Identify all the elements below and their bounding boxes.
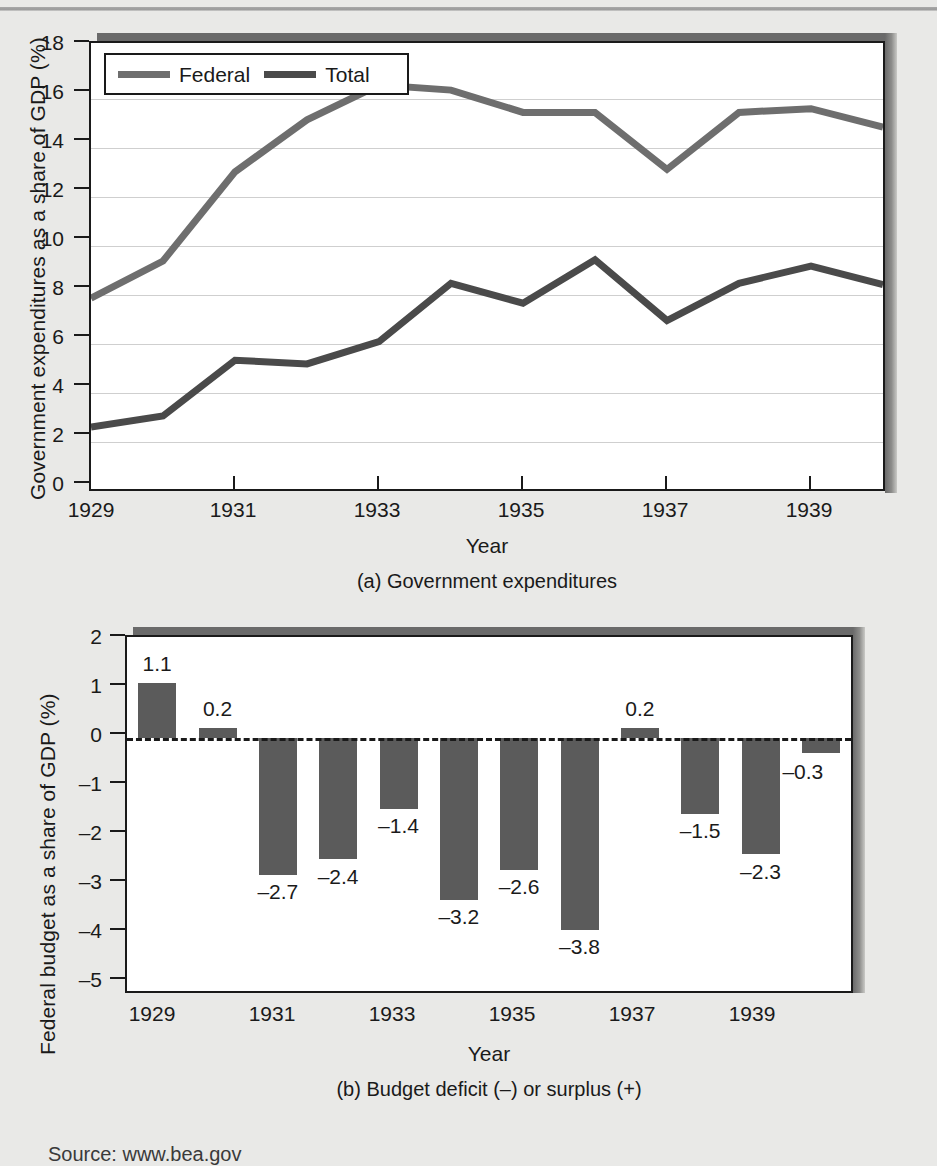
bar-1933 (380, 738, 418, 809)
panel-b-y-tickmark (110, 977, 125, 979)
panel-a-y-tick-10: 10 (20, 228, 64, 249)
panel-b-x-tick-1929: 1929 (107, 1003, 197, 1024)
panel-b-plot-area: 1.1 0.2 –2.7 –2.4 –1.4 –3.2 –2.6 –3.8 0.… (125, 635, 853, 993)
bar-label-1936: –3.8 (539, 936, 620, 957)
panel-a-x-tick-1937: 1937 (620, 499, 710, 520)
legend-entry-total: Total (264, 64, 369, 85)
panel-a-y-tick-6: 6 (20, 326, 64, 347)
bar-1934 (440, 738, 478, 900)
bar-1935 (500, 738, 538, 870)
panel-a-y-tick-18: 18 (20, 32, 64, 53)
source-note: Source: www.bea.gov (48, 1143, 241, 1166)
panel-b-y-tickmark (110, 683, 125, 685)
panel-b-x-tick-1931: 1931 (227, 1003, 317, 1024)
panel-a-plot-area: Federal Total (89, 41, 885, 491)
bar-label-1933: –1.4 (358, 815, 439, 836)
panel-b-y-tick-m5: –5 (40, 969, 102, 990)
bar-label-1934: –3.2 (418, 906, 499, 927)
panel-a-legend: Federal Total (104, 53, 409, 95)
panel-a-x-tick-1929: 1929 (46, 499, 136, 520)
bar-1937 (621, 728, 659, 738)
bar-1931 (259, 738, 297, 875)
panel-a-x-tick-1933: 1933 (332, 499, 422, 520)
panel-b-y-tickmark (110, 879, 125, 881)
bar-label-1940: –0.3 (762, 761, 843, 782)
panel-a-y-tick-2: 2 (20, 424, 64, 445)
legend-label-federal: Federal (179, 64, 250, 85)
panel-a-y-tickmark (74, 285, 89, 287)
panel-b-y-tickmark (110, 634, 125, 636)
panel-b-y-tick-0: 0 (40, 724, 102, 745)
bar-label-1939: –2.3 (720, 861, 801, 882)
panel-a-y-tickmark (74, 334, 89, 336)
panel-b-x-tick-1937: 1937 (587, 1003, 677, 1024)
bar-1932 (319, 738, 357, 859)
panel-a-line-total (91, 260, 883, 427)
legend-label-total: Total (325, 64, 369, 85)
panel-b-y-tick-2: 2 (40, 626, 102, 647)
bar-label-1930: 0.2 (177, 698, 258, 719)
bar-label-1937: 0.2 (599, 698, 680, 719)
bar-1938 (681, 738, 719, 814)
panel-b-caption: (b) Budget deficit (–) or surplus (+) (125, 1078, 853, 1101)
panel-a-y-tickmark (74, 383, 89, 385)
panel-a-y-tickmark (74, 481, 89, 483)
bar-1929 (138, 683, 176, 739)
panel-a-x-tick-1935: 1935 (476, 499, 566, 520)
panel-b-y-tick-m4: –4 (40, 920, 102, 941)
panel-a-plot-shadow-right (885, 33, 897, 493)
panel-a-y-tick-16: 16 (20, 81, 64, 102)
figure-budget-deficit-surplus: Federal budget as a share of GDP (%) 2 1… (0, 600, 937, 1161)
panel-a-y-tick-0: 0 (20, 473, 64, 494)
panel-a-y-tickmark (74, 138, 89, 140)
panel-b-y-tickmark (110, 830, 125, 832)
bar-1939 (742, 738, 780, 854)
bar-label-1938: –1.5 (659, 820, 740, 841)
bar-label-1935: –2.6 (478, 876, 559, 897)
panel-a-line-federal (91, 85, 883, 298)
bar-1936 (561, 738, 599, 930)
panel-a-x-tick-1931: 1931 (188, 499, 278, 520)
bar-label-1932: –2.4 (297, 866, 378, 887)
figure-government-expenditures: Government expenditures as a share of GD… (0, 0, 937, 590)
panel-b-zero-line (127, 738, 851, 741)
panel-b-y-tickmark (110, 732, 125, 734)
panel-b-plot-shadow-right (853, 627, 865, 993)
bar-1930 (199, 728, 237, 738)
panel-a-y-tick-14: 14 (20, 130, 64, 151)
panel-b-x-tick-1933: 1933 (347, 1003, 437, 1024)
panel-a-x-tick-1939: 1939 (764, 499, 854, 520)
panel-a-series-canvas (91, 43, 883, 489)
panel-b-y-tick-1: 1 (40, 675, 102, 696)
panel-b-x-tick-1935: 1935 (467, 1003, 557, 1024)
panel-a-y-tickmark (74, 432, 89, 434)
panel-a-x-axis-title: Year (89, 534, 885, 558)
panel-a-y-tick-12: 12 (20, 179, 64, 200)
panel-b-x-tick-1939: 1939 (707, 1003, 797, 1024)
legend-swatch-federal-icon (118, 71, 170, 78)
panel-a-y-tick-4: 4 (20, 375, 64, 396)
legend-entry-federal: Federal (118, 64, 250, 85)
legend-swatch-total-icon (264, 71, 316, 78)
panel-a-y-tick-8: 8 (20, 277, 64, 298)
panel-b-y-tickmark (110, 928, 125, 930)
panel-a-y-tickmark (74, 40, 89, 42)
panel-b-y-tick-m2: –2 (40, 822, 102, 843)
panel-b-y-tickmark (110, 781, 125, 783)
panel-b-x-axis-title: Year (125, 1042, 853, 1066)
panel-a-y-tickmark (74, 236, 89, 238)
panel-a-caption: (a) Government expenditures (89, 570, 885, 593)
bar-label-1929: 1.1 (116, 653, 197, 674)
panel-a-y-tickmark (74, 187, 89, 189)
panel-a-y-tickmark (74, 89, 89, 91)
panel-b-y-tick-m1: –1 (40, 773, 102, 794)
panel-b-y-tick-m3: –3 (40, 871, 102, 892)
